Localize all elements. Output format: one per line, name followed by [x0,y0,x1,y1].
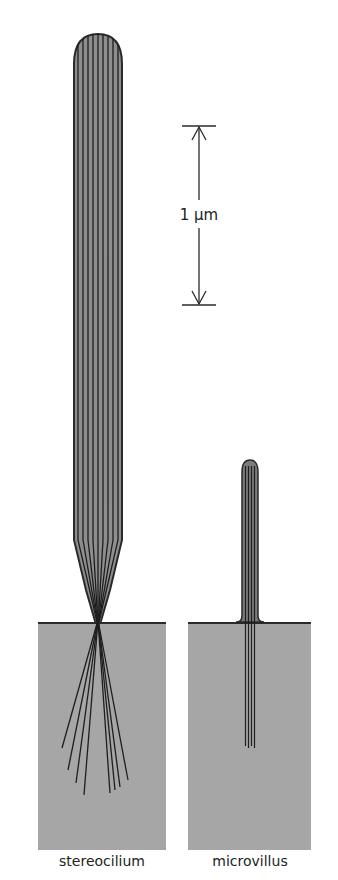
diagram: 1 μm stereocilium microvillus [0,0,338,880]
microvillus-base-tissue [188,622,311,850]
scale-bar-label: 1 μm [180,206,218,224]
microvillus-shaft [236,460,264,622]
microvillus-label: microvillus [212,853,287,869]
stereocilium-label: stereocilium [59,853,145,869]
stereocilium [74,30,122,624]
